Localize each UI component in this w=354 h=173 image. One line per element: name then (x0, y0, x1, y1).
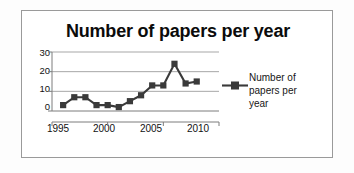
screenshot-root: Number of papers per year 30 20 10 0 199… (0, 0, 354, 173)
chart-legend: Number of papers per year (222, 71, 330, 110)
y-axis-tick-marks (48, 52, 52, 111)
legend-entry: Number of papers per year (222, 71, 330, 110)
x-axis-tick-marks (52, 122, 219, 126)
legend-marker-icon (222, 76, 248, 94)
chart-title: Number of papers per year (22, 21, 334, 42)
gridlines (52, 52, 219, 91)
chart-frame: Number of papers per year 30 20 10 0 199… (21, 10, 333, 158)
plot-svg (22, 47, 232, 127)
series-markers (60, 61, 200, 110)
legend-label: Number of papers per year (249, 71, 315, 110)
axes (52, 52, 219, 122)
